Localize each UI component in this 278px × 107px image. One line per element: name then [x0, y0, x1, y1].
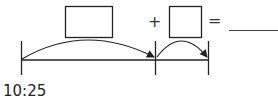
second-jump-arrow — [157, 41, 207, 57]
start-time-label: 10:25 — [3, 82, 46, 100]
equals-sign: = — [208, 11, 221, 30]
plus-sign: + — [148, 12, 161, 31]
first-jump-arrow — [22, 40, 154, 59]
first-addend-box[interactable] — [66, 7, 113, 38]
second-addend-box[interactable] — [170, 7, 202, 38]
